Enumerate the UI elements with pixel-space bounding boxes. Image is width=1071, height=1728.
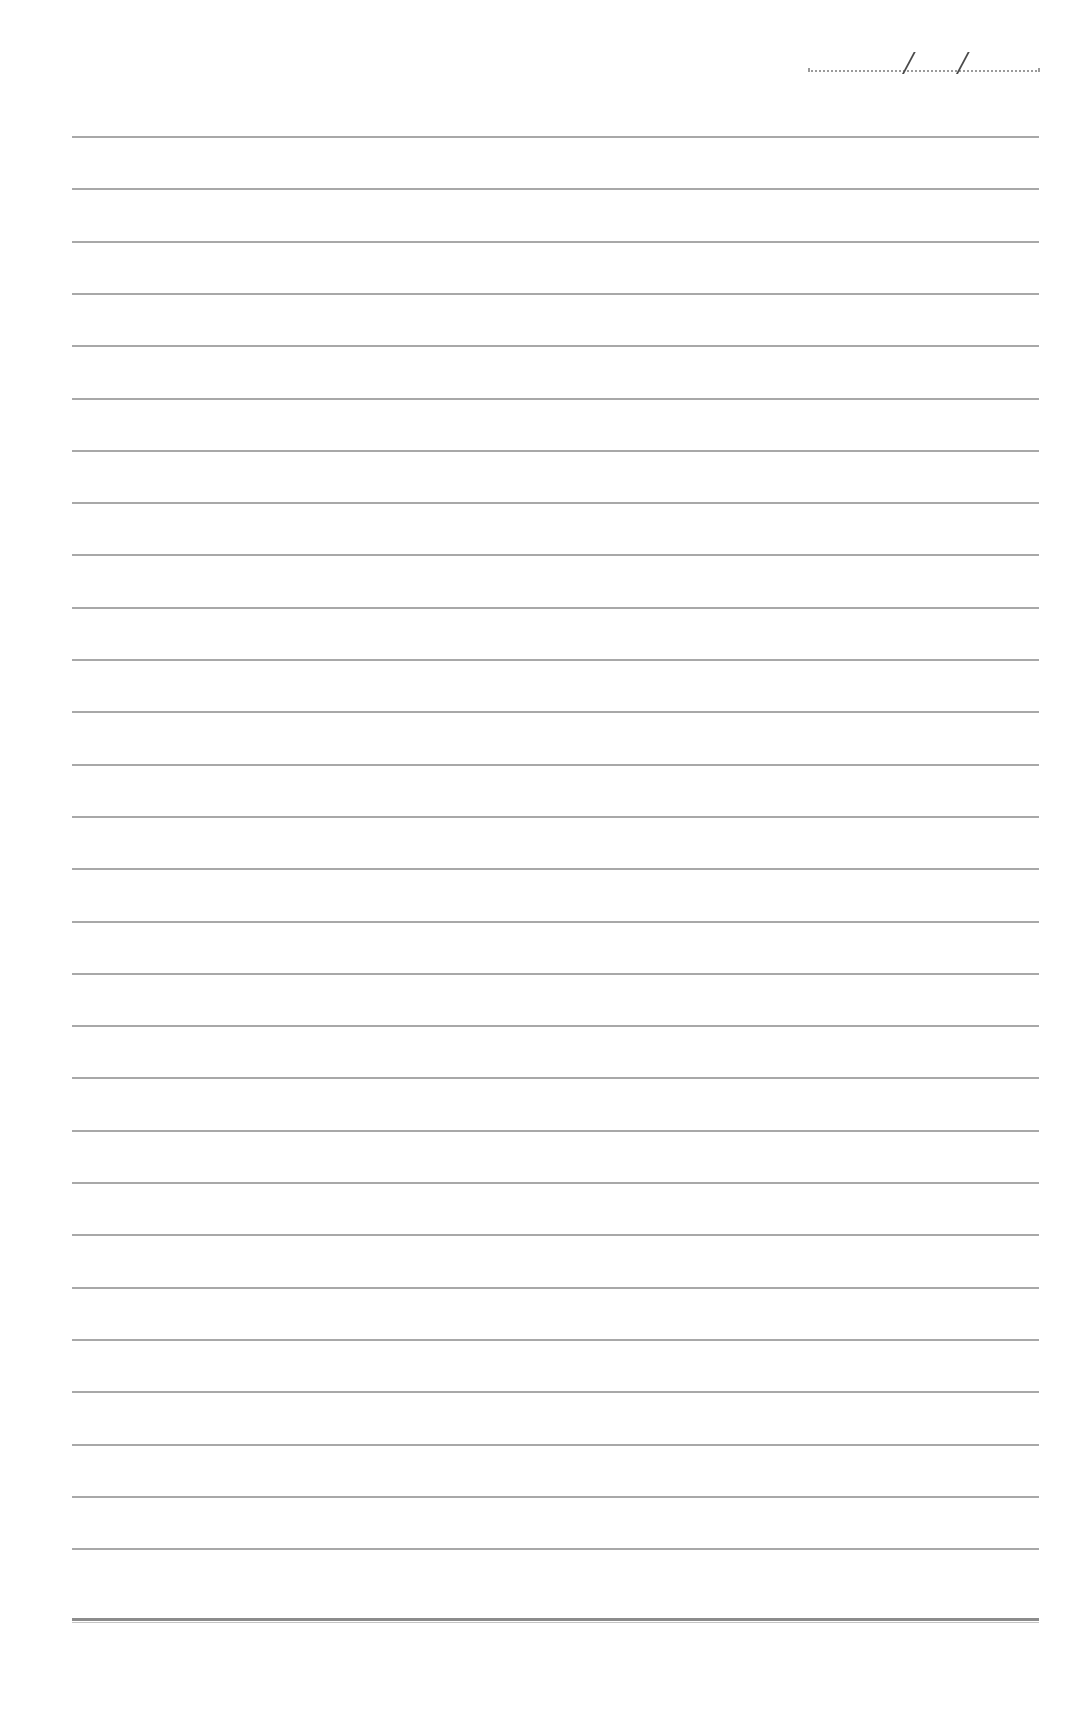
ruled-line [72, 921, 1039, 923]
ruled-line [72, 1391, 1039, 1393]
ruled-line [72, 188, 1039, 190]
ruled-line [72, 1077, 1039, 1079]
ruled-line [72, 711, 1039, 713]
ruled-line [72, 136, 1039, 138]
ruled-line [72, 1496, 1039, 1498]
ruled-line [72, 345, 1039, 347]
ruled-line [72, 764, 1039, 766]
ruled-line [72, 450, 1039, 452]
ruled-line [72, 1130, 1039, 1132]
bottom-double-rule [72, 1618, 1039, 1624]
ruled-line [72, 554, 1039, 556]
ruled-line [72, 293, 1039, 295]
ruled-line [72, 241, 1039, 243]
ruled-line [72, 1025, 1039, 1027]
date-field-dotted-line [808, 70, 1040, 72]
ruled-line [72, 502, 1039, 504]
ruled-line [72, 1287, 1039, 1289]
bottom-rule-thin [72, 1622, 1039, 1623]
ruled-line [72, 1339, 1039, 1341]
ruled-line [72, 973, 1039, 975]
ruled-line [72, 398, 1039, 400]
ruled-line [72, 607, 1039, 609]
ruled-line [72, 816, 1039, 818]
ruled-line [72, 1234, 1039, 1236]
date-field-right-mark [1038, 68, 1040, 70]
bottom-rule-thick [72, 1618, 1039, 1621]
date-field[interactable] [808, 52, 1040, 76]
ruled-line [72, 1548, 1039, 1550]
ruled-line [72, 659, 1039, 661]
ruled-line [72, 1182, 1039, 1184]
ruled-line [72, 868, 1039, 870]
ruled-line [72, 1444, 1039, 1446]
